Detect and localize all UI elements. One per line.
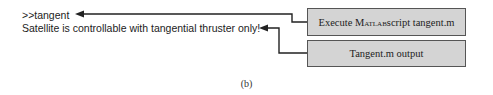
arrow-to-command <box>75 11 307 23</box>
arrow-to-output <box>259 25 307 54</box>
figure-caption: (b) <box>0 78 493 89</box>
